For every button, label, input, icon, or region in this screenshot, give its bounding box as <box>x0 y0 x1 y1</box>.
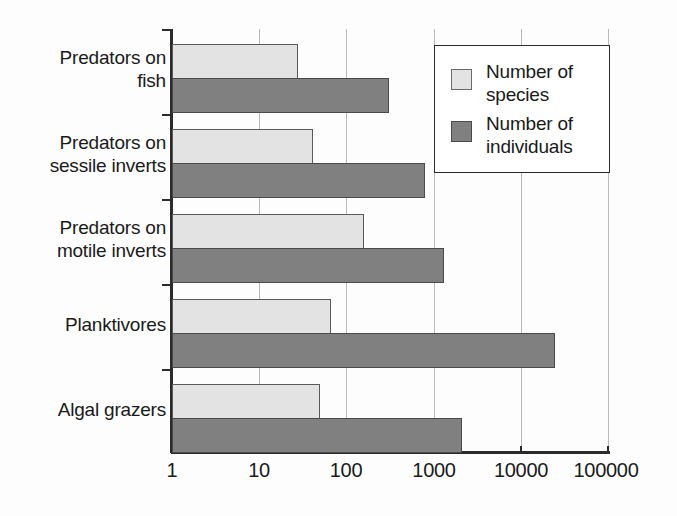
x-axis-label-100000: 100000 <box>574 458 639 482</box>
y-axis-tick <box>162 369 171 371</box>
category-label-planktivores: Planktivores <box>6 313 166 336</box>
legend-label-number-of-individuals: Number of individuals <box>486 112 573 158</box>
y-axis-tick <box>162 114 171 116</box>
y-axis-tick <box>162 284 171 286</box>
x-axis-label-10: 10 <box>248 458 270 482</box>
bar-individuals-algal-grazers <box>172 418 462 453</box>
bar-individuals-planktivores <box>172 333 555 368</box>
bar-individuals-predators-on-sessile-inverts <box>172 163 425 198</box>
legend-item-number-of-species: Number of species <box>451 60 573 106</box>
y-axis-tick <box>162 199 171 201</box>
legend-swatch-light-gray-icon <box>451 69 472 90</box>
legend: Number of species Number of individuals <box>434 45 610 173</box>
bar-species-algal-grazers <box>172 384 320 419</box>
y-axis-tick <box>162 29 171 31</box>
bar-species-predators-on-sessile-inverts <box>172 129 313 164</box>
bar-species-planktivores <box>172 299 331 334</box>
category-label-predators-on-fish: Predators on fish <box>6 46 166 92</box>
x-axis-tick <box>520 446 522 454</box>
bar-individuals-predators-on-fish <box>172 78 389 113</box>
x-axis-label-1000: 1000 <box>412 458 455 482</box>
bar-chart: 1 10 100 1000 10000 100000 Predators on … <box>0 0 677 516</box>
x-axis-label-10000: 10000 <box>494 458 548 482</box>
category-label-predators-on-sessile-inverts: Predators on sessile inverts <box>6 131 166 177</box>
legend-item-number-of-individuals: Number of individuals <box>451 112 573 158</box>
category-label-algal-grazers: Algal grazers <box>6 398 166 421</box>
legend-label-number-of-species: Number of species <box>486 60 573 106</box>
category-label-predators-on-motile-inverts: Predators on motile inverts <box>6 216 166 262</box>
bar-individuals-predators-on-motile-inverts <box>172 248 444 283</box>
x-axis-tick <box>607 446 609 454</box>
bar-species-predators-on-fish <box>172 44 298 79</box>
x-axis-label-1: 1 <box>167 458 178 482</box>
x-axis-label-100: 100 <box>330 458 362 482</box>
legend-swatch-dark-gray-icon <box>451 121 472 142</box>
bar-species-predators-on-motile-inverts <box>172 214 364 249</box>
